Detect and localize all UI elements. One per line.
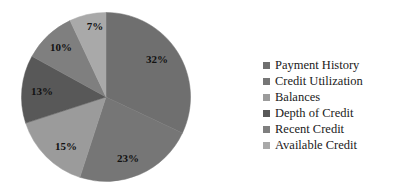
- legend-item[interactable]: Available Credit: [263, 137, 403, 153]
- legend-item[interactable]: Recent Credit: [263, 121, 403, 137]
- pie-slice-label: 32%: [146, 54, 168, 65]
- pie-chart-figure: 32%23%15%13%10%7% Payment HistoryCredit …: [0, 0, 406, 190]
- legend-item-label: Depth of Credit: [275, 105, 353, 121]
- legend-item-label: Balances: [275, 89, 320, 105]
- legend-item-label: Recent Credit: [275, 121, 344, 137]
- legend-swatch-icon: [263, 94, 270, 101]
- legend-swatch-icon: [263, 62, 270, 69]
- legend-item-label: Payment History: [275, 57, 359, 73]
- legend-swatch-icon: [263, 110, 270, 117]
- legend-item[interactable]: Balances: [263, 89, 403, 105]
- legend-item-label: Credit Utilization: [275, 73, 363, 89]
- pie-slice-label: 7%: [87, 21, 104, 32]
- legend-swatch-icon: [263, 126, 270, 133]
- pie-slice-label: 10%: [50, 42, 72, 53]
- legend-item[interactable]: Payment History: [263, 57, 403, 73]
- pie-slice-label: 15%: [55, 141, 77, 152]
- legend-item[interactable]: Depth of Credit: [263, 105, 403, 121]
- legend-swatch-icon: [263, 78, 270, 85]
- legend-item-label: Available Credit: [275, 137, 357, 153]
- legend-item[interactable]: Credit Utilization: [263, 73, 403, 89]
- pie-slice-label: 23%: [117, 153, 139, 164]
- chart-legend: Payment HistoryCredit UtilizationBalance…: [263, 57, 403, 153]
- legend-swatch-icon: [263, 142, 270, 149]
- pie-chart-plot-area: 32%23%15%13%10%7%: [0, 0, 210, 190]
- pie-slice-label: 13%: [31, 86, 53, 97]
- pie-slice-group: [22, 13, 191, 182]
